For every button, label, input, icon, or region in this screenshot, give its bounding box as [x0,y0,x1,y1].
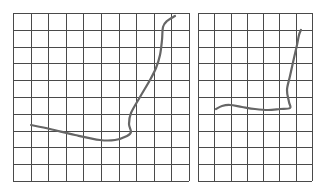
drawn-curve [31,16,175,141]
left-grid-panel [13,13,190,182]
grid-lines [198,13,313,182]
grid-diagram [0,0,321,189]
right-grid-panel [198,13,313,182]
